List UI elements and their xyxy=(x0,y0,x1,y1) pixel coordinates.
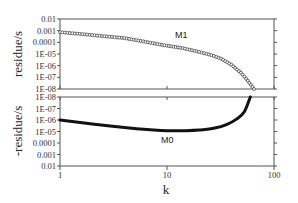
x-tick-label: 100 xyxy=(268,170,281,180)
bottom-y-tick-label: 0.001 xyxy=(37,150,56,160)
bottom-y-tick-label: 0.0001 xyxy=(33,138,56,148)
bottom-y-tick-label: 0.01 xyxy=(41,161,56,171)
top-y-tick-label: 1E-06 xyxy=(35,61,56,71)
top-y-tick-label: 0.0001 xyxy=(33,37,56,47)
bottom-y-tick-label: 1E-08 xyxy=(35,92,56,102)
label-m1: M1 xyxy=(175,30,188,40)
bottom-y-tick-label: 1E-06 xyxy=(35,115,56,125)
bottom-y-tick-label: 1E-05 xyxy=(35,127,56,137)
series-m1 xyxy=(59,31,256,91)
top-y-axis-title: residue/s xyxy=(10,31,25,77)
top-y-tick-label: 0.001 xyxy=(37,26,56,36)
top-plot-frame xyxy=(60,19,274,89)
top-y-tick-label: 0.01 xyxy=(41,14,56,24)
chart-canvas: 0.010.0010.00011E-051E-061E-071E-08 1E-0… xyxy=(0,0,298,203)
bottom-y-axis-title: -residue/s xyxy=(10,106,25,157)
series-m0 xyxy=(60,97,250,131)
bottom-y-tick-label: 1E-07 xyxy=(35,104,56,114)
top-y-tick-label: 1E-05 xyxy=(35,49,56,59)
top-y-tick-label: 1E-07 xyxy=(35,72,56,82)
x-axis-title: k xyxy=(163,182,170,197)
x-tick-label: 10 xyxy=(163,170,172,180)
top-y-axis: 0.010.0010.00011E-051E-061E-071E-08 xyxy=(33,14,277,94)
x-tick-label: 1 xyxy=(58,170,62,180)
label-m0: M0 xyxy=(161,135,174,145)
